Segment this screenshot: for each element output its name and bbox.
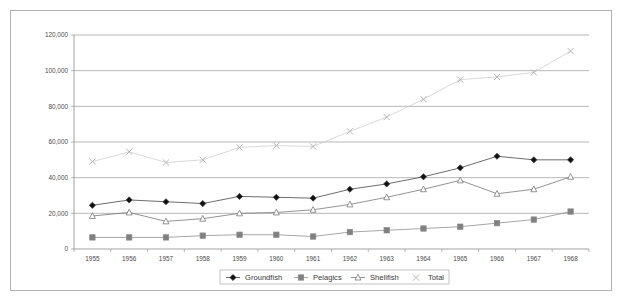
x-axis-tick-label: 1964	[416, 255, 431, 262]
square-data-marker	[421, 226, 426, 231]
diamond-data-marker	[126, 197, 132, 203]
x-axis-tick-label: 1960	[269, 255, 284, 262]
legend-label: Total	[428, 273, 444, 282]
cross-data-marker	[420, 96, 426, 102]
diamond-data-marker	[89, 202, 95, 208]
y-axis-tick-label: 60,000	[48, 138, 68, 145]
y-axis-tick-label: 100,000	[45, 67, 69, 74]
square-data-marker	[237, 232, 242, 237]
axis-tickmarks-group	[71, 35, 589, 252]
diamond-data-marker	[568, 157, 574, 163]
gridlines-group	[74, 35, 589, 249]
line-chart: 020,00040,00060,00080,000100,000120,000 …	[11, 11, 611, 290]
y-axis-tick-label: 40,000	[48, 174, 68, 181]
cross-data-marker	[89, 159, 95, 165]
square-data-marker	[310, 234, 315, 239]
x-axis-tick-label: 1955	[85, 255, 100, 262]
x-axis-tick-label: 1956	[122, 255, 137, 262]
series-total	[89, 48, 573, 166]
series-line-groundfish	[92, 156, 570, 205]
square-data-marker	[274, 232, 279, 237]
triangle-data-marker	[126, 209, 132, 215]
y-axis-tick-label: 20,000	[48, 210, 68, 217]
diamond-data-marker	[531, 157, 537, 163]
cross-data-marker	[384, 114, 390, 120]
series-line-shellfish	[92, 177, 570, 222]
square-data-marker	[163, 235, 168, 240]
x-axis-tick-label: 1957	[159, 255, 174, 262]
legend-label: Pelagics	[313, 273, 342, 282]
chart-legend: GroundfishPelagicsShellfishTotal	[220, 270, 449, 284]
x-axis-tick-label: 1966	[490, 255, 505, 262]
cross-data-marker	[568, 48, 574, 54]
legend-label: Groundfish	[245, 273, 282, 282]
x-axis-tick-label: 1961	[306, 255, 321, 262]
series-line-total	[92, 51, 570, 162]
x-axis-tick-label: 1959	[232, 255, 247, 262]
diamond-data-marker	[384, 181, 390, 187]
square-data-marker	[298, 275, 303, 280]
data-series-group	[89, 48, 573, 240]
x-axis-tick-label: 1965	[453, 255, 468, 262]
x-axis-tick-label: 1963	[380, 255, 395, 262]
legend-label: Shellfish	[370, 273, 399, 282]
x-axis-tick-label: 1967	[527, 255, 542, 262]
square-data-marker	[531, 217, 536, 222]
diamond-data-marker	[494, 153, 500, 159]
square-data-marker	[494, 220, 499, 225]
square-data-marker	[347, 229, 352, 234]
chart-outer-frame: 020,00040,00060,00080,000100,000120,000 …	[10, 10, 612, 291]
y-axis-tick-labels: 020,00040,00060,00080,000100,000120,000	[45, 31, 69, 252]
square-data-marker	[458, 224, 463, 229]
diamond-data-marker	[273, 194, 279, 200]
chart-plot-wrapper: 020,00040,00060,00080,000100,000120,000 …	[11, 11, 611, 290]
cross-data-marker	[347, 128, 353, 134]
diamond-data-marker	[236, 193, 242, 199]
y-axis-tick-label: 80,000	[48, 103, 68, 110]
diamond-data-marker	[310, 195, 316, 201]
square-data-marker	[126, 235, 131, 240]
x-axis-tick-label: 1968	[563, 255, 578, 262]
x-axis-tick-label: 1958	[196, 255, 211, 262]
triangle-data-marker	[568, 174, 574, 180]
square-data-marker	[384, 228, 389, 233]
diamond-data-marker	[420, 174, 426, 180]
y-axis-tick-label: 0	[64, 245, 68, 252]
diamond-data-marker	[457, 165, 463, 171]
square-data-marker	[200, 233, 205, 238]
diamond-data-marker	[200, 200, 206, 206]
diamond-data-marker	[163, 199, 169, 205]
x-axis-tick-label: 1962	[343, 255, 358, 262]
diamond-data-marker	[347, 186, 353, 192]
square-data-marker	[568, 209, 573, 214]
cross-data-marker	[126, 149, 132, 155]
x-axis-tick-labels: 1955195619571958195919601961196219631964…	[85, 255, 578, 262]
square-data-marker	[90, 235, 95, 240]
y-axis-tick-label: 120,000	[45, 31, 69, 38]
series-shellfish	[89, 174, 573, 224]
